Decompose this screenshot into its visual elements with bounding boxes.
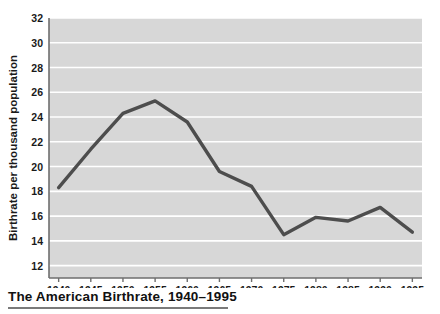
x-axis-tick-label: 1990 bbox=[369, 284, 393, 288]
x-axis-tick-label: 1955 bbox=[143, 284, 167, 288]
x-axis-tick-label: 1965 bbox=[208, 284, 232, 288]
y-axis-tick-label: 12 bbox=[31, 260, 43, 272]
y-axis-tick-label: 20 bbox=[31, 161, 43, 173]
x-axis-tick-label: 1975 bbox=[272, 284, 296, 288]
x-axis-tick-label: 1995 bbox=[401, 284, 425, 288]
x-axis-tick-label: 1940 bbox=[47, 284, 71, 288]
plot-background bbox=[49, 18, 422, 278]
caption-label: The American Birthrate, 1940–1995 bbox=[8, 289, 432, 305]
y-axis-tick-label: 26 bbox=[31, 86, 43, 98]
x-axis-tick-label: 1950 bbox=[111, 284, 135, 288]
y-axis-tick-label: 18 bbox=[31, 185, 43, 197]
caption-underline-rule bbox=[8, 307, 228, 309]
figure-caption: The American Birthrate, 1940–1995 bbox=[8, 289, 432, 309]
x-axis-tick-label: 1945 bbox=[79, 284, 103, 288]
birthrate-figure: 1214161820222426283032 19401945195019551… bbox=[0, 0, 440, 314]
line-chart: 1214161820222426283032 19401945195019551… bbox=[0, 0, 440, 288]
x-axis-tick-label: 1970 bbox=[240, 284, 264, 288]
y-axis-tick-label: 14 bbox=[31, 235, 43, 247]
y-axis-tick-label: 30 bbox=[31, 37, 43, 49]
y-axis-tick-label: 28 bbox=[31, 62, 43, 74]
x-axis-tick-label: 1980 bbox=[304, 284, 328, 288]
plot-background-group bbox=[49, 18, 422, 278]
chart-plot-region: 1214161820222426283032 19401945195019551… bbox=[0, 0, 440, 288]
y-axis-tick-label: 32 bbox=[31, 12, 43, 24]
x-axis-tick-label: 1960 bbox=[176, 284, 200, 288]
y-axis-tick-labels: 1214161820222426283032 bbox=[31, 12, 43, 272]
x-axis-tick-labels: 1940194519501955196019651970197519801985… bbox=[47, 284, 424, 288]
y-axis-tick-label: 22 bbox=[31, 136, 43, 148]
y-axis-tick-label: 24 bbox=[31, 111, 43, 123]
x-axis-tick-label: 1985 bbox=[336, 284, 360, 288]
y-axis-tick-label: 16 bbox=[31, 210, 43, 222]
y-axis-title: Birthrate per thousand population bbox=[7, 55, 19, 241]
